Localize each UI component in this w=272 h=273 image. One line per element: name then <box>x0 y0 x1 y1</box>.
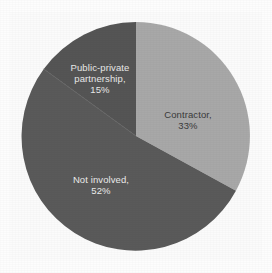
pie-chart-figure: Public-private partnership, 15% Contract… <box>0 0 272 273</box>
pie-chart-graphic <box>0 0 272 273</box>
